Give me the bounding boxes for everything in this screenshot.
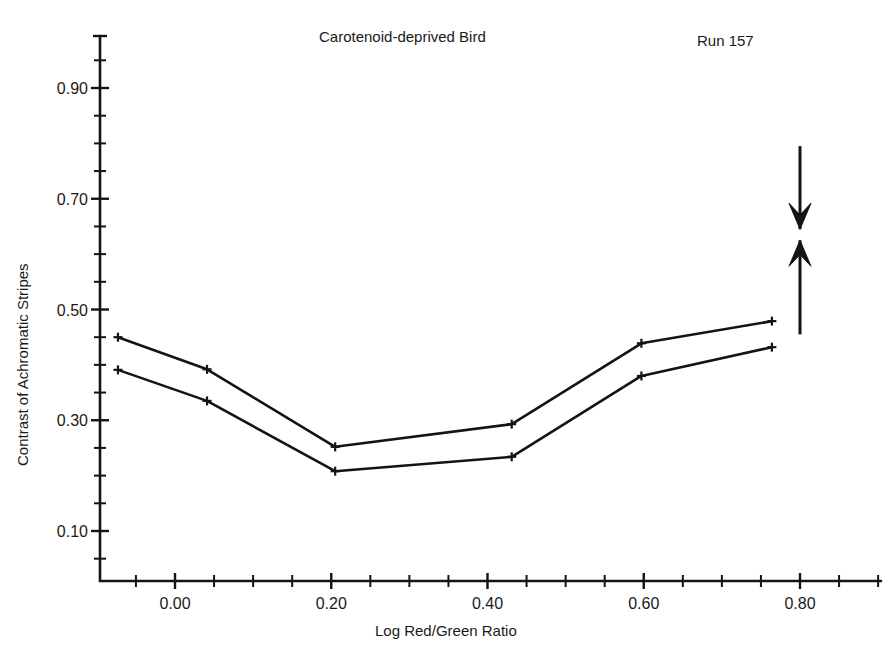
axes-group [100, 36, 881, 581]
y-axis-tick-labels: 0.100.300.500.700.90 [57, 80, 88, 540]
down-arrow-icon [789, 146, 811, 229]
series-line-0 [118, 321, 772, 447]
data-point-marker [767, 343, 776, 352]
x-tick-label-0.00: 0.00 [159, 595, 190, 612]
y-tick-label-0.90: 0.90 [57, 80, 88, 97]
x-tick-label-0.20: 0.20 [316, 595, 347, 612]
data-point-marker [113, 333, 122, 342]
chart-title: Carotenoid-deprived Bird [319, 28, 486, 45]
y-tick-label-0.50: 0.50 [57, 302, 88, 319]
up-arrow-icon [789, 240, 811, 334]
y-tick-label-0.10: 0.10 [57, 523, 88, 540]
run-number-label: Run 157 [697, 32, 754, 49]
y-tick-label-0.30: 0.30 [57, 412, 88, 429]
x-axis-tick-labels: 0.000.200.400.600.80 [159, 595, 815, 612]
data-series-layer [113, 317, 776, 476]
x-tick-label-0.60: 0.60 [628, 595, 659, 612]
x-axis-title: Log Red/Green Ratio [375, 622, 517, 639]
y-axis-title: Contrast of Achromatic Stripes [14, 263, 31, 466]
data-point-marker [767, 317, 776, 326]
series-line-1 [118, 347, 772, 471]
x-tick-label-0.40: 0.40 [472, 595, 503, 612]
annotation-arrows-layer [789, 146, 811, 334]
y-tick-label-0.70: 0.70 [57, 191, 88, 208]
line-chart-canvas: 0.100.300.500.700.90 0.000.200.400.600.8… [0, 0, 892, 661]
x-tick-label-0.80: 0.80 [784, 595, 815, 612]
data-point-marker [113, 365, 122, 374]
chart-figure: 0.100.300.500.700.90 0.000.200.400.600.8… [0, 0, 892, 661]
